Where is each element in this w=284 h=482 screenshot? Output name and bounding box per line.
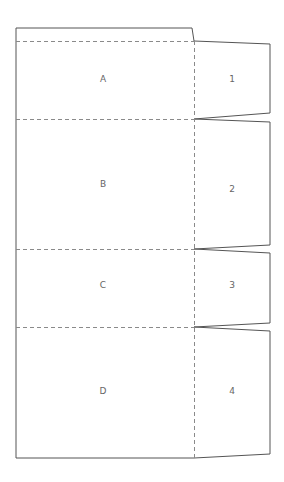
tab-label-2: 2 [229,185,235,194]
panel-label-b: B [100,180,106,189]
diagram-canvas [0,0,284,482]
tab-label-3: 3 [229,281,235,290]
box-net-diagram: A B C D 1 2 3 4 [0,0,284,482]
panel-label-a: A [100,75,106,84]
tab-label-1: 1 [229,75,235,84]
tab-label-4: 4 [229,387,235,396]
panel-label-d: D [100,387,107,396]
panel-label-c: C [100,281,106,290]
